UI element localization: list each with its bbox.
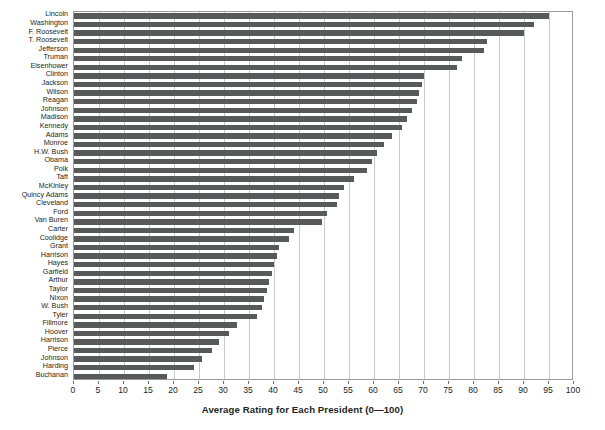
bar-taft xyxy=(74,176,354,181)
bar-ford xyxy=(74,211,327,216)
bar-madison xyxy=(74,116,407,121)
x-tick-40 xyxy=(273,381,274,384)
bar-row xyxy=(74,89,574,98)
x-tick-60 xyxy=(373,381,374,384)
x-tick-0 xyxy=(73,381,74,384)
bar-row xyxy=(74,227,574,236)
bar-coolidge xyxy=(74,236,289,241)
bar-row xyxy=(74,312,574,321)
x-tick-35 xyxy=(248,381,249,384)
clipped-header-text xyxy=(0,0,605,6)
bar-polk xyxy=(74,168,367,173)
bar-row xyxy=(74,372,574,381)
bar-eisenhower xyxy=(74,65,457,70)
bar-fillmore xyxy=(74,322,237,327)
bar-lincoln xyxy=(74,13,549,18)
bar-reagan xyxy=(74,99,417,104)
x-tick-label-55: 55 xyxy=(343,385,353,395)
x-tick-label-90: 90 xyxy=(518,385,528,395)
bar-row xyxy=(74,12,574,21)
bar-carter xyxy=(74,228,294,233)
bar-garfield xyxy=(74,271,272,276)
bar-row xyxy=(74,209,574,218)
bar-row xyxy=(74,252,574,261)
bar-row xyxy=(74,364,574,373)
chart-page: LincolnWashingtonF. RooseveltT. Roosevel… xyxy=(0,0,605,430)
plot-area xyxy=(73,11,573,380)
bar-obama xyxy=(74,159,372,164)
x-tick-80 xyxy=(473,381,474,384)
x-tick-15 xyxy=(148,381,149,384)
x-tick-10 xyxy=(123,381,124,384)
x-tick-85 xyxy=(498,381,499,384)
bar-buchanan xyxy=(74,374,167,379)
bar-h-w-bush xyxy=(74,150,377,155)
bar-row xyxy=(74,46,574,55)
bar-adams xyxy=(74,133,392,138)
bar-f-roosevelt xyxy=(74,30,524,35)
bar-row xyxy=(74,338,574,347)
y-axis-labels: LincolnWashingtonF. RooseveltT. Roosevel… xyxy=(0,11,70,380)
bar-w-bush xyxy=(74,305,262,310)
x-tick-65 xyxy=(398,381,399,384)
x-tick-label-15: 15 xyxy=(143,385,153,395)
bar-row xyxy=(74,166,574,175)
bar-harrison xyxy=(74,339,219,344)
x-tick-label-35: 35 xyxy=(243,385,253,395)
bar-row xyxy=(74,261,574,270)
bar-row xyxy=(74,175,574,184)
x-tick-95 xyxy=(548,381,549,384)
bar-hayes xyxy=(74,262,274,267)
x-tick-90 xyxy=(523,381,524,384)
x-tick-label-0: 0 xyxy=(71,385,76,395)
bar-row xyxy=(74,124,574,133)
x-tick-label-40: 40 xyxy=(268,385,278,395)
bar-johnson xyxy=(74,356,202,361)
bar-jefferson xyxy=(74,48,484,53)
bar-wilson xyxy=(74,90,419,95)
bar-row xyxy=(74,218,574,227)
bar-hoover xyxy=(74,331,229,336)
bar-row xyxy=(74,304,574,313)
x-axis: 0510152025303540455055606570758085909510… xyxy=(73,381,573,397)
x-tick-label-5: 5 xyxy=(96,385,101,395)
x-tick-20 xyxy=(173,381,174,384)
x-tick-label-25: 25 xyxy=(193,385,203,395)
bar-grant xyxy=(74,245,279,250)
bar-quincy-adams xyxy=(74,193,339,198)
bar-row xyxy=(74,287,574,296)
x-tick-55 xyxy=(348,381,349,384)
x-tick-100 xyxy=(573,381,574,384)
x-tick-25 xyxy=(198,381,199,384)
bar-mckinley xyxy=(74,185,344,190)
bar-row xyxy=(74,158,574,167)
bar-row xyxy=(74,192,574,201)
bar-tyler xyxy=(74,314,257,319)
bar-row xyxy=(74,132,574,141)
bar-nixon xyxy=(74,296,264,301)
bar-row xyxy=(74,269,574,278)
bar-row xyxy=(74,115,574,124)
bar-kennedy xyxy=(74,125,402,130)
x-axis-title: Average Rating for Each President (0—100… xyxy=(0,404,605,415)
bar-arthur xyxy=(74,279,269,284)
x-tick-label-70: 70 xyxy=(418,385,428,395)
bar-taylor xyxy=(74,288,267,293)
x-tick-label-95: 95 xyxy=(543,385,553,395)
bar-row xyxy=(74,235,574,244)
bar-row xyxy=(74,149,574,158)
bar-monroe xyxy=(74,142,384,147)
x-tick-label-75: 75 xyxy=(443,385,453,395)
bar-row xyxy=(74,184,574,193)
bar-row xyxy=(74,355,574,364)
bar-row xyxy=(74,72,574,81)
bar-row xyxy=(74,98,574,107)
y-axis-label: Buchanan xyxy=(36,371,68,380)
bar-row xyxy=(74,63,574,72)
bar-harding xyxy=(74,365,194,370)
bar-row xyxy=(74,141,574,150)
x-tick-75 xyxy=(448,381,449,384)
bar-row xyxy=(74,321,574,330)
x-tick-50 xyxy=(323,381,324,384)
bar-clinton xyxy=(74,73,424,78)
